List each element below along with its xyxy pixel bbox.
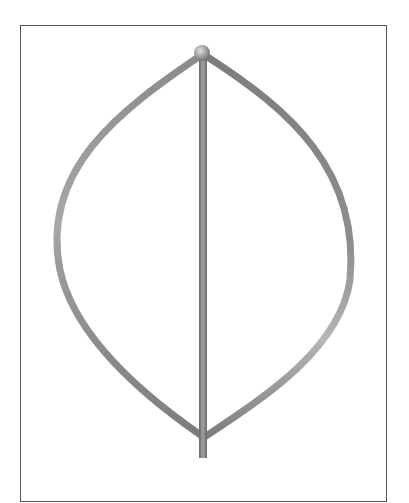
wind-turbine-diagram	[0, 0, 409, 503]
central-shaft	[199, 56, 207, 458]
top-hub	[194, 45, 210, 61]
right-blade	[206, 56, 351, 436]
left-blade	[57, 56, 202, 436]
